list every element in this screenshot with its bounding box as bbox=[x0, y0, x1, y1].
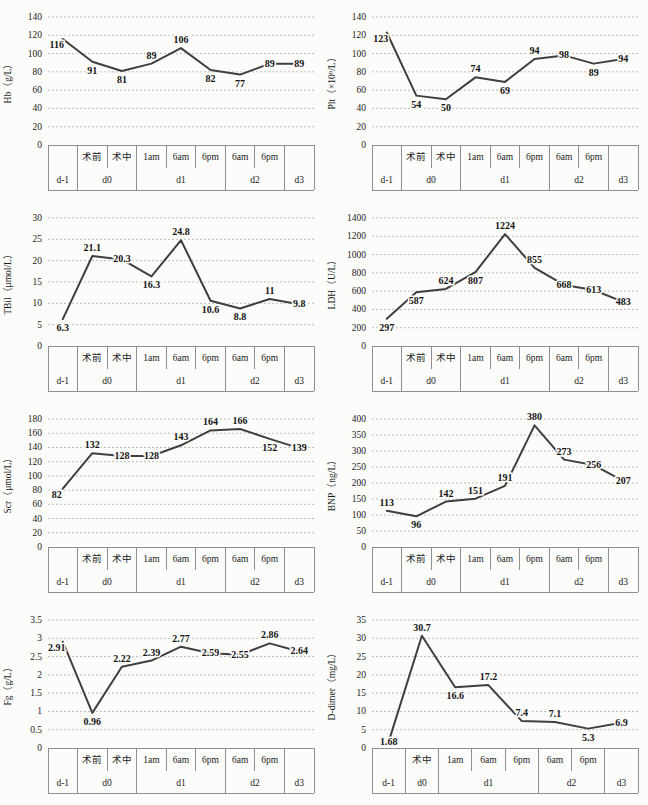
day-label: d2 bbox=[250, 376, 260, 386]
d-dimer-chart-canvas: 05101520253035D-dimer（mg/L）1.6830.716.61… bbox=[324, 603, 648, 804]
point-label: 6.3 bbox=[57, 322, 70, 333]
point-label: 17.2 bbox=[480, 671, 498, 682]
point-label: 10.6 bbox=[202, 304, 220, 315]
y-tick-label: 30 bbox=[33, 213, 43, 223]
day-label: d0 bbox=[102, 376, 112, 386]
point-label: 116 bbox=[50, 39, 64, 50]
time-label: 1am bbox=[467, 152, 484, 162]
chart-plt: 020406080100120140Plt（×10⁹/L）12354507469… bbox=[324, 0, 648, 201]
point-label: 20.3 bbox=[113, 253, 131, 264]
y-tick-label: 5 bbox=[361, 725, 366, 735]
point-label: 139 bbox=[292, 442, 307, 453]
y-tick-label: 40 bbox=[357, 103, 367, 113]
y-tick-label: 250 bbox=[352, 462, 367, 472]
point-label: 6.9 bbox=[615, 717, 628, 728]
tbil-chart-canvas: 051015202530TBil（μmol/L）6.321.120.316.32… bbox=[0, 201, 324, 402]
y-tick-label: 140 bbox=[28, 12, 43, 22]
time-label: 1am bbox=[447, 755, 464, 765]
point-label: 2.39 bbox=[143, 647, 161, 658]
y-tick-label: 15 bbox=[33, 277, 43, 287]
y-tick-label: 80 bbox=[33, 485, 43, 495]
y-tick-label: 180 bbox=[28, 414, 43, 424]
time-label: 6pm bbox=[526, 353, 544, 363]
y-tick-label: 160 bbox=[28, 428, 43, 438]
time-label: 6pm bbox=[513, 755, 531, 765]
y-tick-label: 140 bbox=[352, 12, 367, 22]
point-label: 2.55 bbox=[231, 649, 249, 660]
point-label: 587 bbox=[409, 295, 424, 306]
ldh-chart-canvas: 0200400600800100012001400LDH（U/L）2975876… bbox=[324, 201, 648, 402]
point-label: 7.1 bbox=[549, 708, 562, 719]
y-tick-label: 20 bbox=[33, 256, 43, 266]
y-tick-label: 800 bbox=[352, 268, 367, 278]
point-label: 96 bbox=[411, 519, 421, 530]
y-tick-label: 20 bbox=[33, 528, 43, 538]
bnp-chart-canvas: 050100150200250300350400BNP（ng/L）1139614… bbox=[324, 402, 648, 603]
point-label: 16.6 bbox=[446, 690, 464, 701]
day-label: d3 bbox=[618, 376, 628, 386]
y-tick-label: 1 bbox=[37, 706, 42, 716]
point-label: 668 bbox=[557, 279, 572, 290]
chart-tbil: 051015202530TBil（μmol/L）6.321.120.316.32… bbox=[0, 201, 324, 402]
point-label: 613 bbox=[586, 284, 601, 295]
day-label: d1 bbox=[176, 577, 186, 587]
day-label: d3 bbox=[294, 175, 304, 185]
day-label: d2 bbox=[574, 577, 584, 587]
y-tick-label: 80 bbox=[33, 67, 43, 77]
y-tick-label: 40 bbox=[33, 514, 43, 524]
time-label: 6pm bbox=[585, 152, 603, 162]
scr-chart-canvas: 020406080100120140160180Scr（μmol/L）82132… bbox=[0, 402, 324, 603]
day-label: d1 bbox=[176, 175, 186, 185]
time-label: 6am bbox=[173, 554, 190, 564]
time-label: 术前 bbox=[406, 352, 426, 363]
y-tick-label: 60 bbox=[33, 499, 43, 509]
day-label: d-1 bbox=[380, 376, 393, 386]
day-label: d-1 bbox=[56, 778, 69, 788]
day-label: d2 bbox=[250, 175, 260, 185]
point-label: 74 bbox=[470, 63, 480, 74]
y-tick-label: 0 bbox=[37, 743, 42, 753]
y-tick-label: 1000 bbox=[347, 250, 366, 260]
y-tick-label: 30 bbox=[357, 633, 367, 643]
time-label: 术中 bbox=[436, 553, 456, 564]
time-label: 6am bbox=[232, 755, 249, 765]
day-label: d1 bbox=[500, 175, 510, 185]
y-tick-label: 100 bbox=[28, 471, 43, 481]
day-label: d1 bbox=[176, 778, 186, 788]
point-label: 2.91 bbox=[48, 642, 66, 653]
time-label: 术前 bbox=[82, 553, 102, 564]
day-label: d2 bbox=[567, 778, 577, 788]
point-label: 94 bbox=[618, 53, 628, 64]
point-label: 273 bbox=[557, 446, 572, 457]
y-tick-label: 200 bbox=[352, 323, 367, 333]
y-tick-label: 100 bbox=[352, 510, 367, 520]
point-label: 483 bbox=[616, 296, 631, 307]
day-label: d0 bbox=[102, 778, 112, 788]
point-label: 89 bbox=[146, 50, 156, 61]
y-tick-label: 25 bbox=[33, 234, 43, 244]
time-label: 6am bbox=[173, 152, 190, 162]
y-tick-label: 1200 bbox=[347, 231, 366, 241]
point-label: 82 bbox=[206, 73, 216, 84]
time-label: 6pm bbox=[261, 554, 279, 564]
point-label: 624 bbox=[438, 275, 453, 286]
time-label: 6am bbox=[173, 755, 190, 765]
day-label: d-1 bbox=[56, 577, 69, 587]
time-label: 术中 bbox=[436, 352, 456, 363]
point-label: 89 bbox=[589, 67, 599, 78]
y-axis-title: TBil（μmol/L） bbox=[2, 249, 13, 315]
y-tick-label: 50 bbox=[357, 526, 367, 536]
point-label: 132 bbox=[85, 439, 100, 450]
point-label: 2.64 bbox=[290, 645, 308, 656]
day-label: d0 bbox=[102, 577, 112, 587]
day-label: d3 bbox=[294, 577, 304, 587]
point-label: 113 bbox=[380, 497, 394, 508]
time-label: 1am bbox=[143, 554, 160, 564]
point-label: 297 bbox=[379, 322, 394, 333]
time-label: 6am bbox=[556, 353, 573, 363]
point-label: 89 bbox=[265, 58, 275, 69]
day-label: d3 bbox=[617, 778, 627, 788]
y-tick-label: 15 bbox=[357, 688, 367, 698]
point-label: 8.8 bbox=[234, 311, 247, 322]
y-tick-label: 0 bbox=[361, 743, 366, 753]
